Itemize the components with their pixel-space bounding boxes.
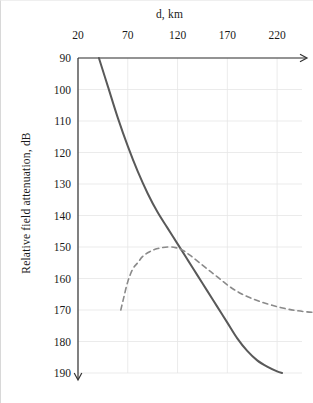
axis-lines [74, 54, 307, 380]
chart-figure: d, km Relative field attenuation, dB 207… [0, 0, 313, 403]
plot-canvas [1, 1, 313, 403]
horizontal-gridlines [78, 58, 302, 373]
series-dashed-curve [121, 247, 313, 313]
